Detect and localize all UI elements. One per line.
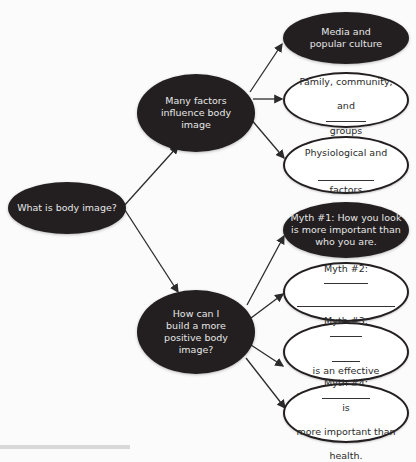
fill-in-blank[interactable] (324, 274, 368, 284)
node-family-community: Family, community, and groups (283, 72, 409, 128)
node-positive-body-image: How can I build a more positive body ima… (137, 290, 255, 374)
fill-in-blank[interactable] (326, 112, 366, 122)
arrow-root-to-factors (123, 146, 178, 207)
node-label: Many factors influence body image (155, 95, 237, 131)
fill-in-blank[interactable] (330, 327, 362, 337)
node-label: How can I build a more positive body ima… (158, 308, 234, 356)
node-label: Family, community, and groups (293, 64, 398, 137)
fill-in-blank[interactable] (318, 171, 374, 181)
fill-in-blank[interactable] (322, 389, 370, 399)
node-myth-1: Myth #1: How you look is more important … (283, 202, 409, 258)
arrow-positive-to-myth1 (247, 236, 284, 305)
arrow-positive-to-myth3 (251, 345, 283, 366)
node-label: Myth #1: How you look is more important … (285, 212, 408, 248)
node-label: Physiological and factors (299, 135, 393, 196)
node-what-is-body-image: What is body image? (8, 182, 126, 234)
arrow-root-to-positive (123, 207, 178, 292)
node-label: What is body image? (11, 202, 123, 214)
node-media-popular-culture: Media and popular culture (283, 12, 409, 64)
arrow-factors-to-physiological (250, 118, 284, 158)
node-many-factors: Many factors influence body image (137, 74, 255, 152)
node-myth-4: Myth #4: is more important than health. (283, 383, 409, 443)
page-edge-shadow (0, 445, 130, 449)
arrow-factors-to-media (250, 44, 282, 92)
arrow-positive-to-myth2 (251, 294, 283, 318)
fill-in-blank[interactable] (332, 352, 360, 362)
node-physiological: Physiological and factors (283, 136, 409, 194)
node-label: Media and popular culture (304, 26, 388, 50)
node-label: Myth #4: is more important than health. (290, 365, 401, 462)
arrow-positive-to-myth4 (246, 358, 285, 408)
